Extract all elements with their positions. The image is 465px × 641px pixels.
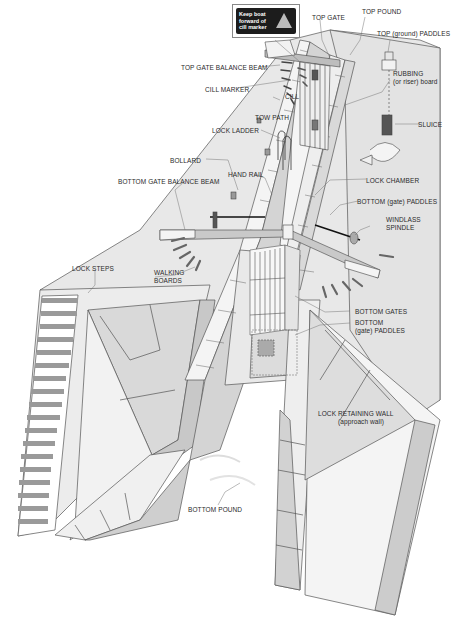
label-sluice: SLUICE (418, 121, 442, 129)
label-bottom-gate-paddles: BOTTOM (gate) PADDLES (357, 198, 437, 206)
lock-diagram (0, 0, 465, 641)
label-bottom-paddles-1: BOTTOM (355, 319, 383, 327)
label-bottom-pound: BOTTOM POUND (188, 506, 242, 514)
label-top-pound: TOP POUND (362, 8, 401, 16)
label-lock-chamber: LOCK CHAMBER (366, 177, 419, 185)
label-rubbing-board-2: (or riser) board (393, 78, 438, 86)
warning-triangle-icon (276, 13, 292, 28)
label-walking-boards-2: BOARDS (154, 277, 182, 285)
label-bollard: BOLLARD (170, 157, 201, 165)
label-top-gate: TOP GATE (312, 14, 345, 22)
label-lock-ladder: LOCK LADDER (212, 127, 259, 135)
label-hand-rail: HAND RAIL (228, 171, 264, 179)
label-bottom-gates: BOTTOM GATES (355, 308, 407, 316)
label-top-paddles: TOP (ground) PADDLES (377, 30, 450, 38)
label-cill-marker: CILL MARKER (205, 86, 249, 94)
label-cill: CILL (285, 93, 299, 101)
sign-text: Keep boat forward of cill marker (239, 11, 267, 31)
label-bottom-gate-balance-beam: BOTTOM GATE BALANCE BEAM (118, 178, 219, 186)
label-walking-boards-1: WALKING (154, 269, 184, 277)
label-top-gate-balance-beam: TOP GATE BALANCE BEAM (181, 64, 268, 72)
label-windlass: WINDLASS (386, 216, 421, 224)
cill-warning-sign: Keep boat forward of cill marker (232, 4, 300, 38)
sign-panel: Keep boat forward of cill marker (236, 8, 296, 34)
label-retaining-wall-2: (approach wall) (338, 418, 384, 426)
label-bottom-paddles-2: (gate) PADDLES (355, 327, 405, 335)
label-tow-path: TOW PATH (255, 114, 289, 122)
label-retaining-wall-1: LOCK RETAINING WALL (318, 410, 394, 418)
label-rubbing-board-1: RUBBING (393, 70, 423, 78)
label-lock-steps: LOCK STEPS (72, 265, 114, 273)
bottom-pound-water (200, 455, 255, 485)
label-spindle: SPINDLE (386, 224, 415, 232)
